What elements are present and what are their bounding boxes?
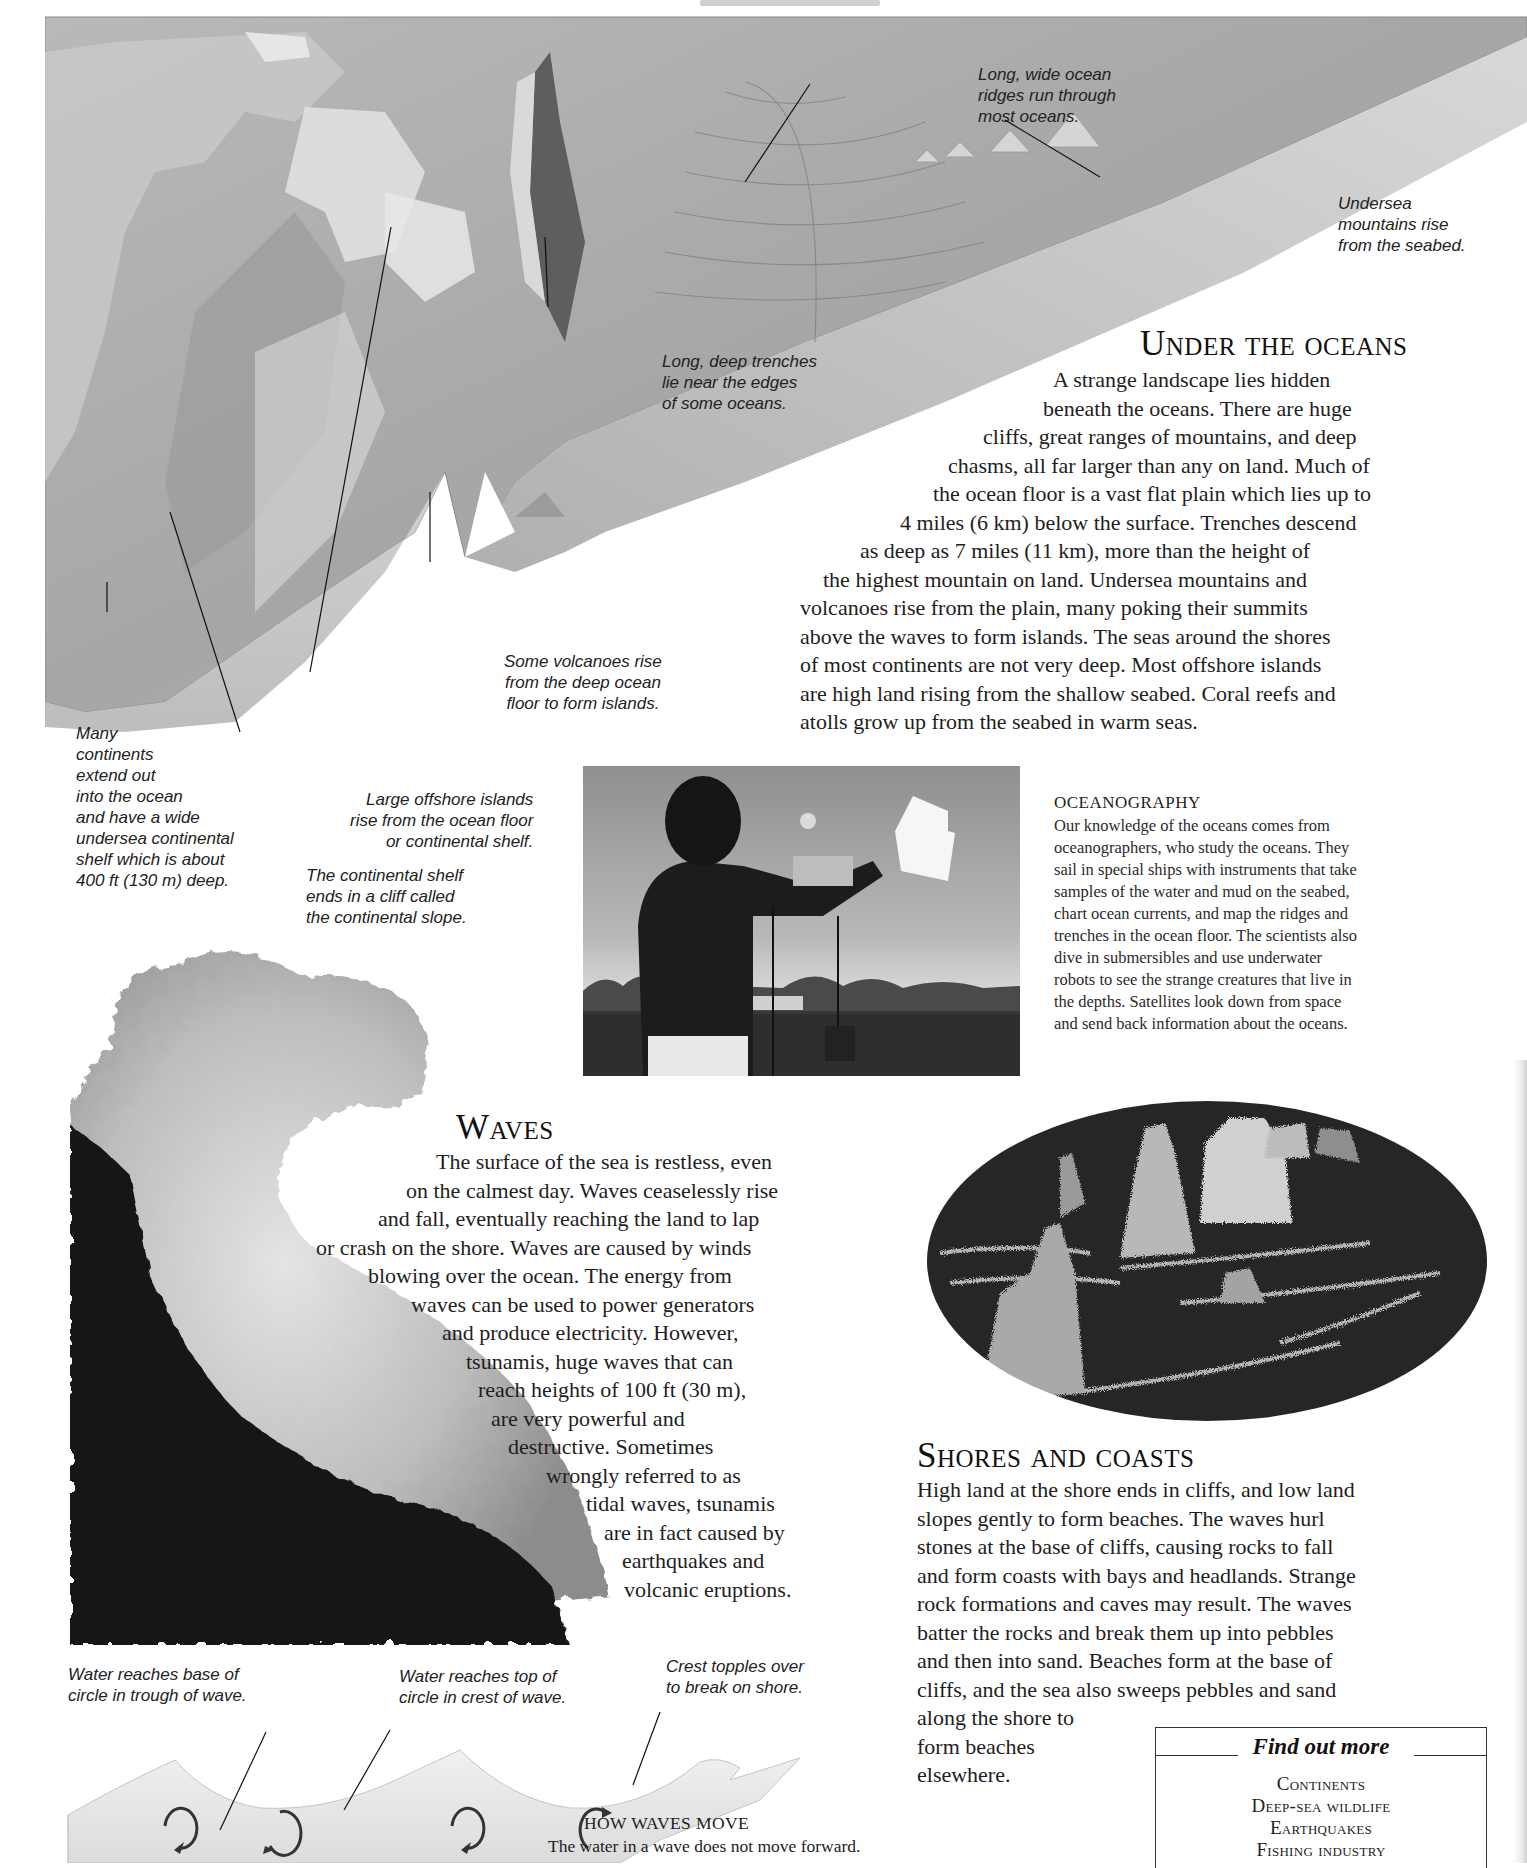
heading-under-the-oceans: Under the oceans [1140, 324, 1407, 364]
body-line: are high land rising from the shallow se… [788, 680, 1488, 709]
body-line: above the waves to form islands. The sea… [788, 623, 1488, 652]
body-line: volcanoes rise from the plain, many poki… [788, 594, 1488, 623]
body-line: and form coasts with bays and headlands.… [917, 1562, 1497, 1591]
caption-crest: Water reaches top of circle in crest of … [399, 1666, 566, 1708]
find-out-more-title: Find out more [1156, 1734, 1486, 1760]
body-line: as deep as 7 miles (11 km), more than th… [788, 537, 1488, 566]
body-line: cliffs, and the sea also sweeps pebbles … [917, 1676, 1497, 1705]
caption-ocean-ridges: Long, wide ocean ridges run through most… [978, 64, 1116, 127]
heading-oceanography: OCEANOGRAPHY [1054, 793, 1201, 813]
caption-topples: Crest topples over to break on shore. [666, 1656, 804, 1698]
body-line: A strange landscape lies hidden [788, 366, 1488, 395]
body-line: are in fact caused by [316, 1519, 916, 1548]
link-deep-sea-wildlife[interactable]: Deep-sea wildlife [1156, 1795, 1486, 1817]
body-line: slopes gently to form beaches. The waves… [917, 1505, 1497, 1534]
link-fishing-industry[interactable]: Fishing industry [1156, 1839, 1486, 1861]
oceanography-body: Our knowledge of the oceans comes from o… [1054, 815, 1494, 1035]
under-the-oceans-body: A strange landscape lies hidden beneath … [788, 366, 1488, 737]
rule-right [1414, 1755, 1486, 1756]
body-line: chart ocean currents, and map the ridges… [1054, 903, 1494, 925]
wave-diagram-title: HOW WAVES MOVE [584, 1813, 749, 1834]
body-line: oceanographers, who study the oceans. Th… [1054, 837, 1494, 859]
body-line: waves can be used to power generators [316, 1291, 916, 1320]
body-line: The surface of the sea is restless, even [316, 1148, 916, 1177]
body-line: reach heights of 100 ft (30 m), [316, 1376, 916, 1405]
find-out-more-list: Continents Deep-sea wildlife Earthquakes… [1156, 1773, 1486, 1861]
body-line: on the calmest day. Waves ceaselessly ri… [316, 1177, 916, 1206]
body-line: chasms, all far larger than any on land.… [788, 452, 1488, 481]
waves-body: The surface of the sea is restless, even… [316, 1148, 916, 1604]
caption-offshore-islands: Large offshore islands rise from the oce… [350, 789, 533, 852]
body-line: Our knowledge of the oceans comes from [1054, 815, 1494, 837]
caption-undersea-mountains: Undersea mountains rise from the seabed. [1338, 193, 1466, 256]
coastal-rock-stacks-photo [920, 1093, 1495, 1428]
body-line: High land at the shore ends in cliffs, a… [917, 1476, 1497, 1505]
body-line: and then into sand. Beaches form at the … [917, 1647, 1497, 1676]
caption-continental-shelf: Many continents extend out into the ocea… [76, 723, 234, 891]
body-line: volcanic eruptions. [316, 1576, 916, 1605]
link-earthquakes[interactable]: Earthquakes [1156, 1817, 1486, 1839]
body-line: rock formations and caves may result. Th… [917, 1590, 1497, 1619]
heading-waves: Waves [456, 1108, 554, 1148]
body-line: cliffs, great ranges of mountains, and d… [788, 423, 1488, 452]
body-line: wrongly referred to as [316, 1462, 916, 1491]
body-line: robots to see the strange creatures that… [1054, 969, 1494, 991]
body-line: the ocean floor is a vast flat plain whi… [788, 480, 1488, 509]
body-line: and produce electricity. However, [316, 1319, 916, 1348]
body-line: samples of the water and mud on the seab… [1054, 881, 1494, 903]
body-line: dive in submersibles and use underwater [1054, 947, 1494, 969]
body-line: blowing over the ocean. The energy from [316, 1262, 916, 1291]
link-continents[interactable]: Continents [1156, 1773, 1486, 1795]
body-line: and send back information about the ocea… [1054, 1013, 1494, 1035]
caption-trough: Water reaches base of circle in trough o… [68, 1664, 247, 1706]
caption-continental-slope: The continental shelf ends in a cliff ca… [306, 865, 467, 928]
caption-volcanoes: Some volcanoes rise from the deep ocean … [504, 651, 662, 714]
body-line: atolls grow up from the seabed in warm s… [788, 708, 1488, 737]
heading-shores-and-coasts: Shores and coasts [917, 1436, 1194, 1476]
body-line: earthquakes and [316, 1547, 916, 1576]
body-line: stones at the base of cliffs, causing ro… [917, 1533, 1497, 1562]
find-out-more-box: Find out more Continents Deep-sea wildli… [1155, 1727, 1487, 1868]
body-line: tsunamis, huge waves that can [316, 1348, 916, 1377]
body-line: batter the rocks and break them up into … [917, 1619, 1497, 1648]
body-line: sail in special ships with instruments t… [1054, 859, 1494, 881]
body-line: and fall, eventually reaching the land t… [316, 1205, 916, 1234]
body-line: or crash on the shore. Waves are caused … [316, 1234, 916, 1263]
body-line: 4 miles (6 km) below the surface. Trench… [788, 509, 1488, 538]
running-head [700, 0, 880, 6]
body-line: beneath the oceans. There are huge [788, 395, 1488, 424]
body-line: of most continents are not very deep. Mo… [788, 651, 1488, 680]
wave-diagram-subtitle: The water in a wave does not move forwar… [548, 1836, 860, 1857]
body-line: trenches in the ocean floor. The scienti… [1054, 925, 1494, 947]
body-line: the highest mountain on land. Undersea m… [788, 566, 1488, 595]
page-edge-shadow [1513, 1060, 1527, 1863]
body-line: are very powerful and [316, 1405, 916, 1434]
body-line: the depths. Satellites look down from sp… [1054, 991, 1494, 1013]
body-line: tidal waves, tsunamis [316, 1490, 916, 1519]
body-line: destructive. Sometimes [316, 1433, 916, 1462]
